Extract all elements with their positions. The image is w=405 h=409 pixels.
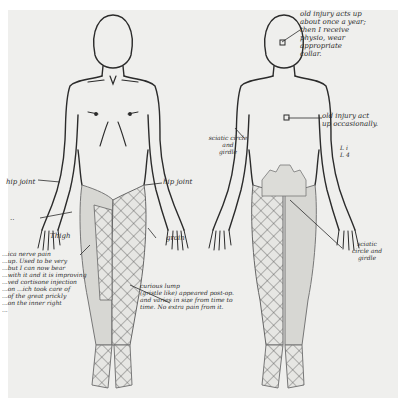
label-sciatic-circle-left: sciatic circle and girdle <box>203 134 253 155</box>
back-feet <box>262 345 304 388</box>
label-thigh: Thigh <box>50 232 70 240</box>
note-mid-back-old-injury: old injury act up occasionally. <box>322 112 402 128</box>
label-hip-joint-left: hip joint <box>6 178 35 186</box>
back-head <box>265 15 304 68</box>
front-right-leg-hatch <box>112 185 146 345</box>
note-neck-old-injury: old injury acts up about once a year; th… <box>300 10 400 58</box>
label-groin: groin <box>166 234 185 242</box>
label-vertebra-marks: L i L 4 <box>340 144 350 158</box>
label-sciatic-circle-right: sciatic circle and girdle <box>342 240 392 261</box>
mid-back-injury-marker <box>284 115 289 120</box>
back-right-leg-shading <box>285 185 316 345</box>
body-figures <box>0 0 405 409</box>
label-hip-joint-right: hip joint <box>163 178 192 186</box>
back-left-leg-hatch <box>252 185 283 345</box>
note-sciatic-nerve-pain: ...ica nerve pain ...up. Used to be very… <box>2 250 92 313</box>
front-feet <box>92 345 132 388</box>
note-curious-lump: curious lump (gristle like) appeared pos… <box>140 282 280 310</box>
sacral-region <box>262 165 306 196</box>
label-left-dash: .. <box>10 214 14 222</box>
front-head <box>94 15 133 68</box>
